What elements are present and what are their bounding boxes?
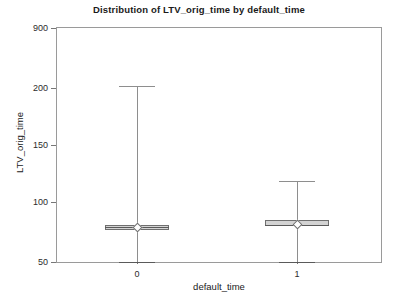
y-axis-tick-mark <box>51 28 56 29</box>
chart-title: Distribution of LTV_orig_time by default… <box>0 4 398 15</box>
lower-whisker-line <box>297 226 298 262</box>
upper-whisker-cap <box>279 181 315 182</box>
y-axis-tick-mark <box>51 202 56 203</box>
lower-whisker-cap <box>119 262 155 263</box>
x-axis-title: default_time <box>56 281 382 292</box>
y-axis-tick-mark <box>51 145 56 146</box>
x-axis-tick-label: 1 <box>277 269 317 279</box>
y-axis-tick-mark <box>51 262 56 263</box>
upper-whisker-line <box>297 181 298 220</box>
upper-whisker-cap <box>119 86 155 87</box>
boxplot-chart: Distribution of LTV_orig_time by default… <box>0 0 398 305</box>
y-axis-tick-mark <box>51 88 56 89</box>
lower-whisker-cap <box>279 262 315 263</box>
y-axis-tick-label: 50 <box>0 257 48 267</box>
x-axis-tick-label: 0 <box>117 269 157 279</box>
y-axis-title: LTV_orig_time <box>14 73 25 213</box>
lower-whisker-line <box>137 230 138 262</box>
y-axis-tick-label: 900 <box>0 23 48 33</box>
upper-whisker-line <box>137 86 138 224</box>
